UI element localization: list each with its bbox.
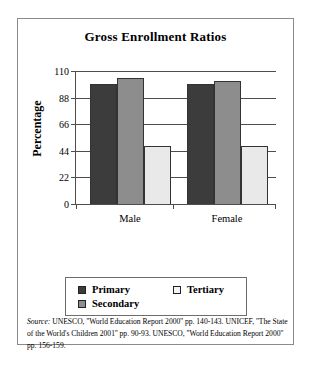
legend-item-secondary: Secondary [78,298,173,309]
legend-swatch-secondary-icon [78,300,86,308]
category-separator-middle [173,204,174,209]
legend-label-primary: Primary [92,284,130,295]
category-separator-left [76,204,77,209]
legend-item-primary: Primary [78,284,173,295]
source-note: Source: UNESCO, ''World Education Report… [27,316,289,351]
legend-swatch-tertiary-icon [173,286,181,294]
y-tick-label-110: 110 [54,66,69,77]
bar-male-primary [90,84,117,204]
category-label-female: Female [212,213,243,224]
y-tick-label-88: 88 [59,92,69,103]
bar-female-primary [187,84,214,204]
plot-block: Percentage 0 22 44 66 [18,67,295,232]
legend-swatch-primary-icon [78,286,86,294]
y-tick-label-44: 44 [59,145,69,156]
y-tick-label-66: 66 [59,119,69,130]
bar-group-male [90,71,171,204]
source-text: UNESCO, ''World Education Report 2000'' … [27,317,288,350]
bar-male-tertiary [144,146,171,204]
legend-label-tertiary: Tertiary [187,284,224,295]
bar-group-female [187,71,268,204]
legend-row-2: Secondary [78,298,236,309]
bar-male-secondary [117,78,144,204]
figure-frame: Gross Enrollment Ratios Percentage 0 22 … [17,18,294,345]
legend-label-secondary: Secondary [92,298,139,309]
axis-baseline [76,204,276,205]
chart-title: Gross Enrollment Ratios [18,29,293,45]
legend-item-tertiary: Tertiary [173,284,224,295]
y-tick-label-22: 22 [59,172,69,183]
bar-female-tertiary [241,146,268,204]
bars-layer [76,71,276,204]
source-label: Source: [27,317,50,326]
y-axis-title: Percentage [30,74,45,184]
chart-legend: Primary Tertiary Secondary [65,277,247,316]
category-separator-right [275,204,276,209]
bar-female-secondary [214,81,241,204]
plot-area: 0 22 44 66 88 [75,71,275,204]
category-label-male: Male [119,213,141,224]
legend-row-1: Primary Tertiary [78,284,236,295]
y-tick-label-0: 0 [64,199,69,210]
